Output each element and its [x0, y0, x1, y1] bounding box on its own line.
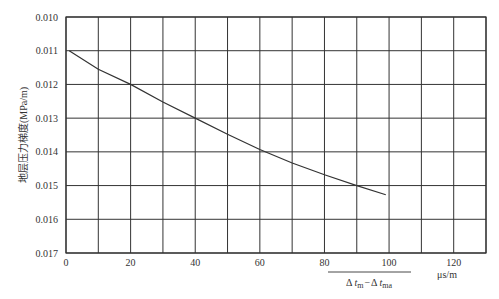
- x-axis-unit: μs/m: [437, 269, 457, 280]
- x-tick-label: 100: [382, 257, 397, 268]
- y-tick-label: 0.014: [36, 146, 59, 157]
- x-tick-label: 80: [319, 257, 329, 268]
- grid-lines: [66, 17, 486, 253]
- y-tick-label: 0.017: [36, 248, 59, 259]
- y-tick-label: 0.012: [36, 79, 59, 90]
- x-axis-label: Δtm−Δtma: [346, 277, 393, 290]
- plot-frame: [66, 17, 486, 253]
- y-tick-label: 0.010: [36, 12, 59, 23]
- y-axis-tick-labels: 0.0100.0110.0120.0130.0140.0150.0160.017: [36, 12, 59, 259]
- x-tick-label: 0: [64, 257, 69, 268]
- y-tick-label: 0.011: [36, 45, 58, 56]
- y-tick-label: 0.015: [36, 180, 59, 191]
- x-tick-label: 40: [190, 257, 200, 268]
- x-axis-tick-labels: 020406080100120: [64, 257, 462, 268]
- x-tick-label: 60: [255, 257, 265, 268]
- y-axis-label: 地层压力梯度(MPa/m): [17, 87, 30, 183]
- x-tick-label: 20: [126, 257, 136, 268]
- y-tick-label: 0.013: [36, 113, 59, 124]
- x-tick-label: 120: [446, 257, 461, 268]
- y-tick-label: 0.016: [36, 214, 59, 225]
- chart: 0.0100.0110.0120.0130.0140.0150.0160.017…: [0, 0, 499, 299]
